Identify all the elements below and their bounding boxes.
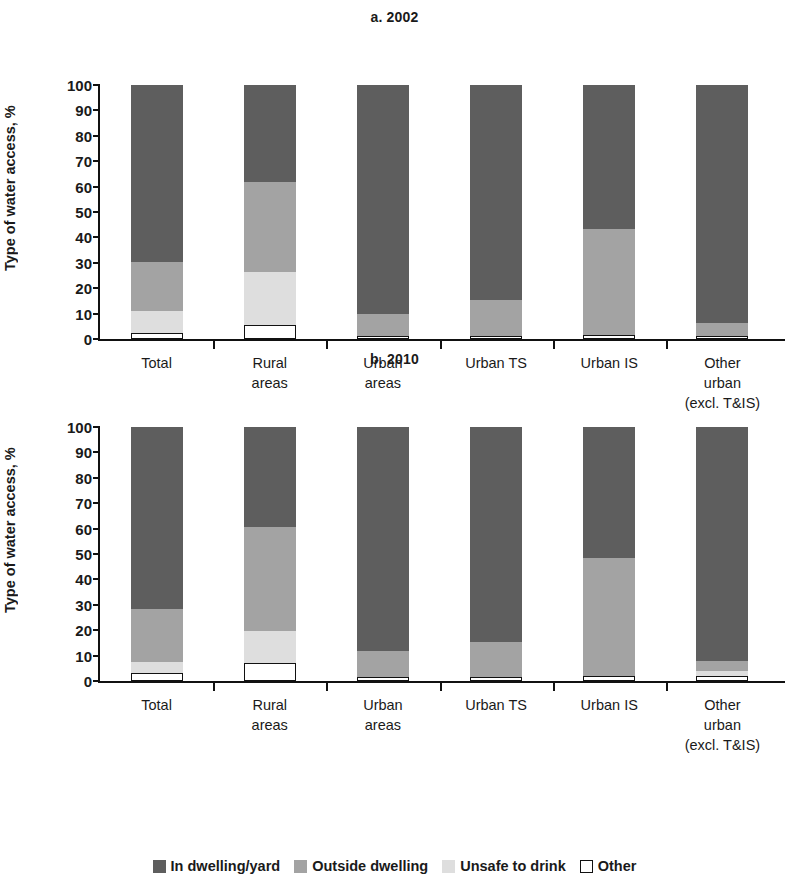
bar-segment-other[interactable] — [131, 673, 183, 681]
bar-segment-outside-dwelling[interactable] — [583, 229, 635, 336]
stacked-bar[interactable] — [244, 427, 296, 681]
bar-segment-outside-dwelling[interactable] — [244, 182, 296, 272]
bar-segment-outside-dwelling[interactable] — [357, 651, 409, 678]
x-axis-category-label: Total — [100, 695, 213, 715]
bar-segment-in-dwelling-yard[interactable] — [470, 85, 522, 300]
y-axis-tick-mark — [93, 426, 100, 428]
bar-segment-outside-dwelling[interactable] — [696, 323, 748, 337]
legend-swatch-icon — [580, 860, 593, 873]
panel-b-title: b. 2010 — [0, 348, 789, 370]
y-axis-tick-mark — [93, 578, 100, 580]
y-axis-tick-label: 70 — [52, 154, 92, 169]
legend-item-unsafe[interactable]: Unsafe to drink — [442, 858, 566, 874]
y-axis-tick-mark — [93, 528, 100, 530]
y-axis-tick-mark — [93, 502, 100, 504]
y-axis-label-b: Type of water access, % — [2, 420, 24, 640]
bar-segment-in-dwelling-yard[interactable] — [357, 85, 409, 314]
bar-segment-in-dwelling-yard[interactable] — [583, 85, 635, 229]
y-axis-tick-label: 70 — [52, 496, 92, 511]
stacked-bar[interactable] — [583, 427, 635, 681]
y-axis-tick-mark — [93, 655, 100, 657]
y-axis-tick-mark — [93, 451, 100, 453]
stacked-bar[interactable] — [470, 85, 522, 339]
y-axis-tick-label: 20 — [52, 281, 92, 296]
bar-segment-outside-dwelling[interactable] — [696, 661, 748, 671]
bar-segment-outside-dwelling[interactable] — [470, 642, 522, 678]
legend-item-in-dwelling[interactable]: In dwelling/yard — [153, 858, 281, 874]
legend-label: Outside dwelling — [312, 858, 428, 874]
plot-area-2002: Type of water access, % 0102030405060708… — [0, 28, 789, 328]
legend-label: Other — [598, 858, 637, 874]
legend-item-outside-dwelling[interactable]: Outside dwelling — [294, 858, 428, 874]
bar-segment-in-dwelling-yard[interactable] — [357, 427, 409, 651]
bar-segment-unsafe-to-drink[interactable] — [131, 662, 183, 673]
bar-segment-outside-dwelling[interactable] — [470, 300, 522, 337]
y-axis-tick-mark — [93, 186, 100, 188]
y-axis-tick-label: 50 — [52, 547, 92, 562]
stacked-bar[interactable] — [357, 85, 409, 339]
bar-segment-in-dwelling-yard[interactable] — [470, 427, 522, 642]
bar-segment-in-dwelling-yard[interactable] — [244, 427, 296, 527]
stacked-bar[interactable] — [357, 427, 409, 681]
bar-segment-other[interactable] — [244, 663, 296, 681]
y-axis-tick-mark — [93, 604, 100, 606]
bar-segment-other[interactable] — [131, 333, 183, 339]
stacked-bar[interactable] — [696, 427, 748, 681]
stacked-bar[interactable] — [131, 427, 183, 681]
panel-2010: b. 2010 Type of water access, % 01020304… — [0, 348, 789, 670]
y-axis-tick-label: 10 — [52, 648, 92, 663]
bar-segment-in-dwelling-yard[interactable] — [131, 427, 183, 609]
panel-2002: a. 2002 Type of water access, % 01020304… — [0, 6, 789, 328]
bar-segment-other[interactable] — [244, 325, 296, 339]
y-axis-tick-label: 10 — [52, 306, 92, 321]
x-axis-tick-mark — [213, 683, 215, 691]
bar-segment-outside-dwelling[interactable] — [583, 558, 635, 676]
bar-segment-other[interactable] — [583, 676, 635, 681]
y-axis-tick-label: 80 — [52, 128, 92, 143]
bar-segment-outside-dwelling[interactable] — [131, 262, 183, 312]
bar-segment-in-dwelling-yard[interactable] — [583, 427, 635, 558]
bar-segment-other[interactable] — [583, 335, 635, 339]
bar-segment-outside-dwelling[interactable] — [244, 527, 296, 631]
legend-item-other[interactable]: Other — [580, 858, 637, 874]
x-axis-tick-mark — [666, 683, 668, 691]
y-axis-tick-mark — [93, 553, 100, 555]
y-axis-tick-mark — [93, 211, 100, 213]
x-axis-category-label: Urban IS — [553, 695, 666, 715]
bar-segment-in-dwelling-yard[interactable] — [131, 85, 183, 262]
panel-a-title: a. 2002 — [0, 6, 789, 28]
y-axis-tick-mark — [93, 84, 100, 86]
y-axis-tick-mark — [93, 338, 100, 340]
bar-segment-outside-dwelling[interactable] — [131, 609, 183, 662]
bar-segment-outside-dwelling[interactable] — [357, 314, 409, 337]
bar-segment-in-dwelling-yard[interactable] — [244, 85, 296, 182]
bar-segment-other[interactable] — [696, 336, 748, 339]
bar-segment-other[interactable] — [696, 676, 748, 681]
bar-segment-other[interactable] — [470, 336, 522, 339]
stacked-bar[interactable] — [583, 85, 635, 339]
y-axis-tick-mark — [93, 629, 100, 631]
stacked-bar[interactable] — [696, 85, 748, 339]
y-axis-tick-label: 50 — [52, 205, 92, 220]
y-axis-tick-label: 30 — [52, 597, 92, 612]
y-axis-tick-mark — [93, 680, 100, 682]
bar-segment-other[interactable] — [357, 336, 409, 339]
bar-segment-unsafe-to-drink[interactable] — [244, 272, 296, 325]
x-axis-tick-mark — [440, 683, 442, 691]
legend-label: Unsafe to drink — [460, 858, 566, 874]
bar-segment-unsafe-to-drink[interactable] — [696, 671, 748, 676]
stacked-bar[interactable] — [131, 85, 183, 339]
bar-segment-unsafe-to-drink[interactable] — [131, 311, 183, 333]
bar-segment-unsafe-to-drink[interactable] — [244, 631, 296, 663]
bar-segment-other[interactable] — [470, 677, 522, 681]
y-axis-tick-label: 90 — [52, 445, 92, 460]
stacked-bar[interactable] — [470, 427, 522, 681]
bar-segment-other[interactable] — [357, 677, 409, 681]
y-axis-tick-label: 90 — [52, 103, 92, 118]
legend-swatch-icon — [153, 860, 166, 873]
bar-segment-in-dwelling-yard[interactable] — [696, 427, 748, 661]
y-axis-tick-label: 60 — [52, 179, 92, 194]
bar-segment-in-dwelling-yard[interactable] — [696, 85, 748, 322]
stacked-bar[interactable] — [244, 85, 296, 339]
x-axis-category-label: Urban TS — [440, 695, 553, 715]
